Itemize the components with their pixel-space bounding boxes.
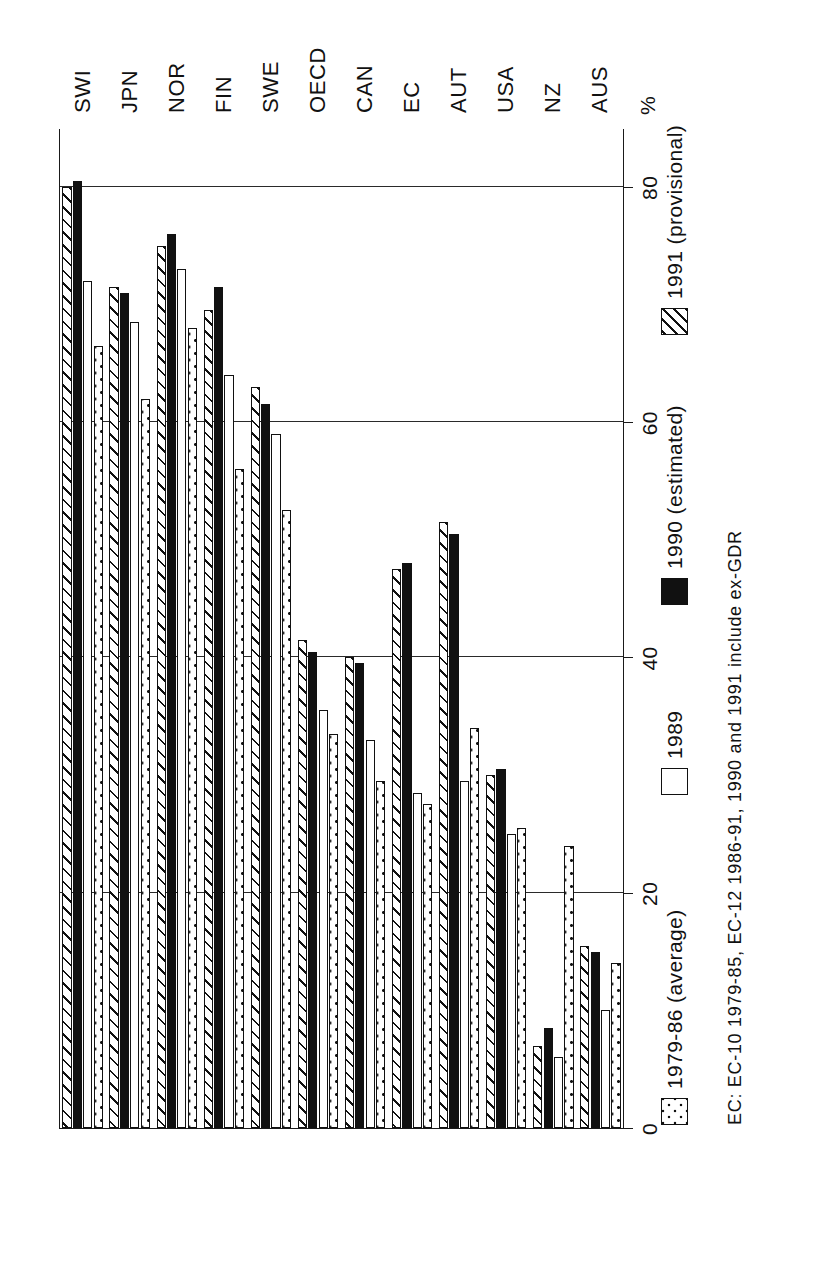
bar-FIN-avg (235, 469, 244, 1128)
bar-SWE-y1990 (261, 404, 270, 1128)
legend-swatch-y1989 (661, 768, 688, 795)
axis-tick-label-0: 0 (638, 1123, 662, 1135)
bar-EC-y1991 (392, 569, 401, 1128)
bar-USA-y1991 (486, 775, 495, 1128)
axis-tick-20 (624, 893, 633, 894)
bar-USA-avg (517, 828, 526, 1128)
bar-OECD-y1991 (298, 640, 307, 1128)
bar-USA-y1990 (496, 769, 505, 1128)
bar-CAN-avg (376, 781, 385, 1128)
bar-NZ-y1990 (544, 1028, 553, 1128)
gridline-80 (60, 186, 623, 187)
bar-AUS-y1990 (591, 952, 600, 1128)
category-label-USA: USA (493, 66, 519, 113)
bar-OECD-y1989 (319, 710, 328, 1128)
category-label-NOR: NOR (164, 62, 190, 113)
legend-item-y1991: 1991 (provisional) (661, 125, 688, 335)
axis-tick-label-20: 20 (638, 882, 662, 906)
bar-NZ-avg (564, 846, 573, 1128)
bar-AUT-y1990 (449, 534, 458, 1128)
bar-SWE-y1989 (271, 434, 280, 1128)
bar-AUT-y1991 (439, 522, 448, 1128)
bar-NOR-y1989 (177, 269, 186, 1128)
bar-NOR-y1991 (157, 246, 166, 1128)
bar-OECD-y1990 (308, 652, 317, 1128)
bar-FIN-y1990 (214, 287, 223, 1128)
bar-USA-y1989 (507, 834, 516, 1128)
bar-AUS-avg (611, 963, 620, 1128)
axis-tick-80 (624, 187, 633, 188)
bar-SWI-y1990 (73, 181, 82, 1128)
bar-JPN-y1991 (109, 287, 118, 1128)
legend-item-y1990: 1990 (estimated) (661, 405, 688, 605)
bar-OECD-avg (329, 734, 338, 1128)
legend-swatch-avg (661, 1098, 688, 1125)
chart-footnote: EC: EC-10 1979-85, EC-12 1986-91, 1990 a… (725, 530, 746, 1125)
bar-AUS-y1989 (601, 1010, 610, 1128)
axis-tick-label-40: 40 (638, 646, 662, 670)
category-label-AUS: AUS (587, 66, 613, 113)
category-label-SWI: SWI (70, 70, 96, 113)
legend-swatch-y1990 (661, 578, 688, 605)
category-label-JPN: JPN (117, 70, 143, 113)
legend-swatch-y1991 (661, 308, 688, 335)
bar-FIN-y1989 (224, 375, 233, 1128)
bar-CAN-y1989 (366, 740, 375, 1128)
bar-CAN-y1991 (345, 657, 354, 1128)
category-label-SWE: SWE (258, 61, 284, 113)
bar-CAN-y1990 (355, 663, 364, 1128)
bar-SWI-y1991 (62, 187, 71, 1128)
legend-label-y1991: 1991 (provisional) (663, 125, 687, 299)
axis-tick-40 (624, 657, 633, 658)
bar-SWE-avg (282, 510, 291, 1128)
legend-item-y1989: 1989 (661, 711, 688, 795)
category-label-EC: EC (399, 81, 425, 113)
bar-EC-y1990 (402, 563, 411, 1128)
chart-legend: 1979-86 (average)19891990 (estimated)199… (661, 125, 707, 1125)
legend-label-y1989: 1989 (663, 711, 687, 759)
bar-AUT-avg (470, 728, 479, 1128)
bar-NOR-avg (188, 328, 197, 1128)
axis-unit-label: % (636, 96, 660, 115)
axis-tick-label-60: 60 (638, 411, 662, 435)
bar-AUT-y1989 (460, 781, 469, 1128)
chart-page: % 020406080 SWIJPNNORFINSWEOECDCANECAUTU… (0, 0, 820, 1284)
bar-SWE-y1991 (251, 387, 260, 1128)
rotated-figure-wrapper: % 020406080 SWIJPNNORFINSWEOECDCANECAUTU… (0, 0, 820, 1284)
bar-EC-avg (423, 804, 432, 1128)
bar-AUS-y1991 (580, 946, 589, 1128)
category-label-CAN: CAN (352, 65, 378, 113)
category-label-FIN: FIN (211, 76, 237, 113)
plot-area (59, 129, 624, 1129)
bar-NZ-y1989 (554, 1057, 563, 1128)
bar-FIN-y1991 (204, 310, 213, 1128)
legend-label-y1990: 1990 (estimated) (663, 405, 687, 569)
bar-JPN-avg (141, 399, 150, 1128)
category-label-NZ: NZ (540, 82, 566, 113)
bar-SWI-y1989 (83, 281, 92, 1128)
chart-stage: % 020406080 SWIJPNNORFINSWEOECDCANECAUTU… (25, 47, 795, 1237)
bar-NZ-y1991 (533, 1046, 542, 1128)
axis-tick-60 (624, 422, 633, 423)
legend-item-avg: 1979-86 (average) (661, 909, 688, 1125)
category-label-AUT: AUT (446, 67, 472, 113)
legend-label-avg: 1979-86 (average) (663, 909, 687, 1089)
bar-JPN-y1990 (120, 293, 129, 1128)
bar-JPN-y1989 (130, 322, 139, 1128)
bar-NOR-y1990 (167, 234, 176, 1128)
category-label-OECD: OECD (305, 47, 331, 113)
bar-SWI-avg (94, 346, 103, 1128)
bar-EC-y1989 (413, 793, 422, 1128)
axis-tick-0 (624, 1128, 633, 1129)
axis-tick-label-80: 80 (638, 176, 662, 200)
